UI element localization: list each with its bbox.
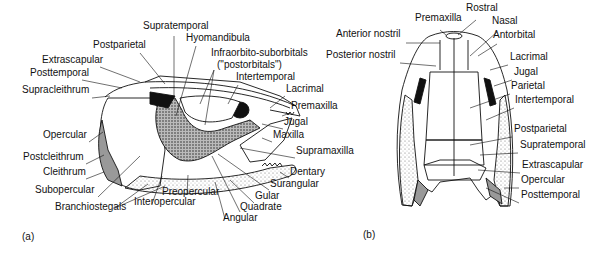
- label-opercular: Opercular: [521, 174, 565, 185]
- label-supratemporal: Supratemporal: [143, 20, 209, 31]
- label-postparietal: Postparietal: [514, 123, 567, 134]
- label-lacrimal: Lacrimal: [510, 51, 548, 62]
- label-posterior-nostril: Posterior nostril: [326, 49, 395, 60]
- label-supracleithrum: Supracleithrum: [22, 84, 89, 95]
- label-supramaxilla: Supramaxilla: [296, 145, 354, 156]
- label-opercular: Opercular: [43, 129, 87, 140]
- panel-b-tag: (b): [363, 229, 375, 240]
- label-maxilla: Maxilla: [273, 129, 304, 140]
- label-dentary: Dentary: [290, 166, 325, 177]
- label-jugal: Jugal: [284, 116, 308, 127]
- label-subopercular: Subopercular: [35, 184, 94, 195]
- label-lacrimal: Lacrimal: [286, 83, 324, 94]
- label-premaxilla: Premaxilla: [415, 12, 462, 23]
- label-parietal: Parietal: [511, 80, 545, 91]
- panel-a-tag: (a): [22, 231, 34, 242]
- label-posttemporal: Posttemporal: [30, 67, 89, 78]
- label-nasal: Nasal: [492, 15, 518, 26]
- label-intertemporal: Intertemporal: [236, 71, 295, 82]
- label-interopercular: Interopercular: [134, 196, 196, 207]
- label-angular: Angular: [223, 212, 257, 223]
- label-postcleithrum: Postcleithrum: [23, 151, 84, 162]
- label-jugal: Jugal: [514, 66, 538, 77]
- label-infraorbito-suborbitals: Infraorbito-suborbitals: [211, 47, 308, 58]
- label-hyomandibula: Hyomandibula: [186, 32, 250, 43]
- label-anterior-nostril: Anterior nostril: [336, 28, 400, 39]
- label-branchiostegals: Branchiostegals: [55, 201, 126, 212]
- label-rostral: Rostral: [466, 2, 498, 13]
- label-extrascapular: Extrascapular: [42, 54, 103, 65]
- label-intertemporal: Intertemporal: [515, 94, 574, 105]
- label-posttemporal: Posttemporal: [521, 189, 580, 200]
- label-antorbital: Antorbital: [493, 29, 535, 40]
- label-surangular: Surangular: [270, 178, 319, 189]
- label-extrascapular: Extrascapular: [522, 159, 583, 170]
- label-gular: Gular: [255, 190, 279, 201]
- label-premaxilla: Premaxilla: [291, 100, 338, 111]
- label-postorbitals: ("postorbitals"): [217, 59, 282, 70]
- label-quadrate: Quadrate: [240, 201, 282, 212]
- label-postparietal: Postparietal: [93, 39, 146, 50]
- label-cleithrum: Cleithrum: [43, 166, 86, 177]
- label-supratemporal: Supratemporal: [520, 139, 586, 150]
